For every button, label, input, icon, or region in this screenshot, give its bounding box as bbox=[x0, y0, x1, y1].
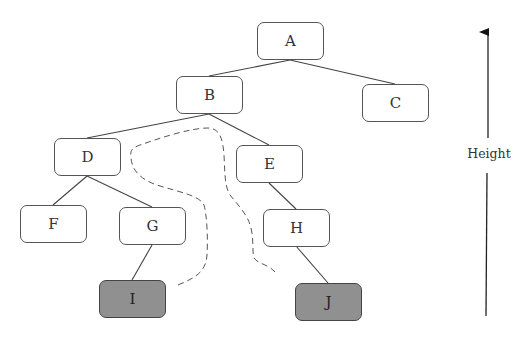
tree-node-e: E bbox=[236, 145, 303, 183]
tree-node-g: G bbox=[119, 207, 186, 245]
tree-node-j: J bbox=[295, 283, 362, 321]
tree-node-c: C bbox=[362, 84, 429, 122]
height-arrow-lower bbox=[486, 173, 487, 316]
tree-node-a: A bbox=[257, 22, 324, 60]
edge-b-e bbox=[209, 114, 269, 145]
tree-node-h: H bbox=[263, 209, 330, 247]
edge-a-c bbox=[290, 60, 395, 84]
edge-h-j bbox=[296, 246, 328, 283]
edge-e-h bbox=[269, 183, 296, 209]
tree-node-f: F bbox=[20, 205, 87, 243]
edge-b-d bbox=[87, 114, 209, 138]
tree-node-i: I bbox=[99, 280, 166, 318]
edge-d-f bbox=[53, 176, 87, 205]
edge-g-i bbox=[132, 245, 152, 280]
tree-node-b: B bbox=[176, 76, 243, 114]
edge-d-g bbox=[87, 176, 152, 207]
height-axis-label: Height bbox=[466, 146, 512, 161]
tree-node-d: D bbox=[54, 138, 121, 176]
edge-a-b bbox=[209, 60, 290, 76]
